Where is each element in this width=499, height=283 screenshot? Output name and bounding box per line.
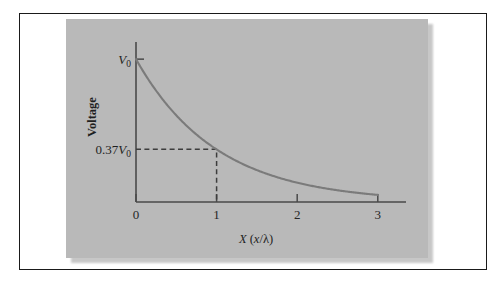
- chart-panel: 0 1 2 3 V0 0.37V0 X (x/λ) Voltage: [66, 19, 428, 258]
- y-axis-title: Voltage: [85, 97, 99, 137]
- exponential-decay-curve: [136, 59, 378, 195]
- figure-root: 0 1 2 3 V0 0.37V0 X (x/λ) Voltage: [0, 0, 499, 283]
- voltage-decay-plot: 0 1 2 3 V0 0.37V0 X (x/λ) Voltage: [66, 19, 428, 258]
- y-label-037v0: 0.37V0: [96, 142, 132, 159]
- x-tick-label-2: 2: [294, 207, 301, 222]
- x-axis-title-close: ): [269, 232, 273, 246]
- x-axis-title-open: (: [247, 232, 254, 246]
- x-tick-label-0: 0: [133, 207, 140, 222]
- x-tick-label-1: 1: [213, 207, 220, 222]
- dashed-guide-0.37v0: [136, 149, 217, 202]
- y-label-037v0-prefix: 0.37: [96, 142, 119, 157]
- y-label-v0-subscript: 0: [126, 59, 131, 69]
- y-label-037v0-subscript: 0: [126, 149, 131, 159]
- x-axis-title: X (x/λ): [238, 232, 273, 246]
- y-label-v0: V0: [118, 52, 131, 69]
- x-tick-label-3: 3: [375, 207, 382, 222]
